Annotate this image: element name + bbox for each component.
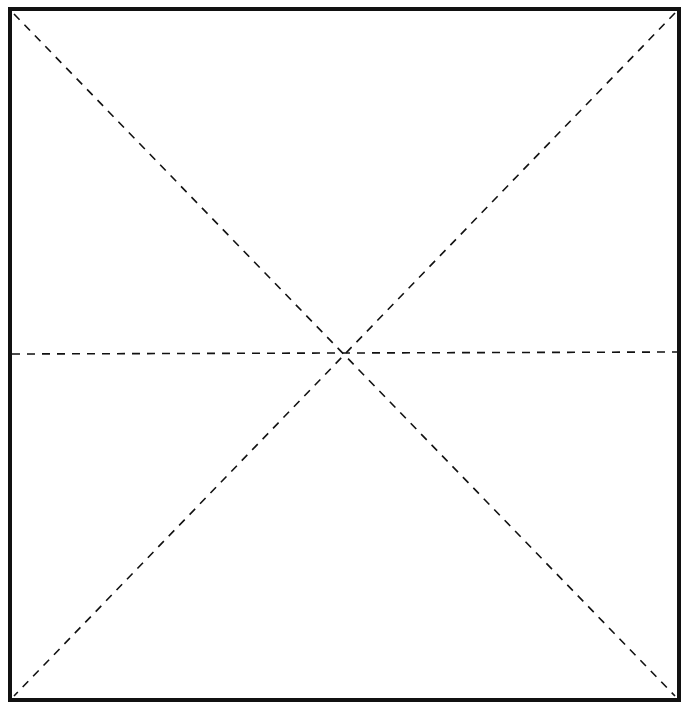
fold-diagram bbox=[0, 0, 686, 713]
diagonal-fold-line-1 bbox=[14, 14, 675, 696]
horizontal-fold-line bbox=[12, 352, 677, 354]
